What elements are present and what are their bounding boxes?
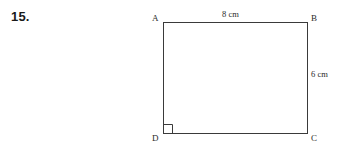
vertex-label-b: B — [311, 13, 317, 23]
rectangle-shape — [164, 23, 308, 134]
rectangle-diagram — [0, 0, 346, 148]
vertex-label-a: A — [152, 13, 159, 23]
vertex-label-c: C — [311, 133, 317, 143]
vertex-label-d: D — [152, 133, 159, 143]
dimension-label-right: 6 cm — [311, 69, 328, 79]
dimension-label-top: 8 cm — [222, 9, 239, 19]
worksheet-figure-page: 15. A B C D 8 cm 6 cm — [0, 0, 346, 148]
right-angle-marker-icon — [164, 125, 173, 134]
